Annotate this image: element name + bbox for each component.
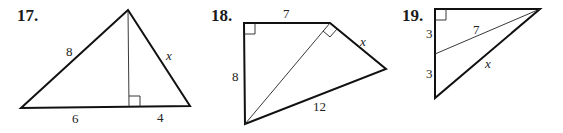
right-angle-marker-17: [129, 96, 140, 107]
label-right-side-17: x: [165, 48, 172, 63]
inner-segment-19: [435, 9, 540, 54]
label-base-right-17: 4: [157, 110, 164, 125]
right-angle-marker-top-left-18: [244, 23, 255, 34]
problem-number-17: 17.: [17, 6, 38, 25]
figure-18: 18. 7 x 8 12: [211, 6, 386, 124]
problem-number-18: 18.: [211, 6, 232, 25]
triangle-17: [21, 10, 190, 108]
right-angle-marker-top-right-18: [323, 29, 337, 37]
altitude-17: [128, 10, 129, 107]
label-hypotenuse-19: x: [484, 56, 491, 71]
figure-17: 17. 8 x 6 4: [17, 6, 190, 126]
problem-number-19: 19.: [402, 6, 423, 25]
right-angle-marker-19: [435, 9, 446, 20]
label-upper-left-19: 3: [426, 26, 433, 41]
label-top-18: 7: [283, 6, 290, 21]
triangle-19: [435, 9, 540, 98]
label-base-left-17: 6: [72, 111, 79, 126]
label-bottom-18: 12: [313, 99, 326, 114]
label-right-upper-18: x: [359, 34, 366, 49]
label-inner-segment-19: 7: [473, 22, 480, 37]
label-lower-left-19: 3: [426, 66, 433, 81]
geometry-figures: 17. 8 x 6 4 18. 7 x 8 12 19. 3 7 3 x: [0, 0, 563, 133]
figure-19: 19. 3 7 3 x: [402, 6, 540, 98]
label-left-side-17: 8: [66, 44, 73, 59]
label-left-18: 8: [232, 69, 239, 84]
